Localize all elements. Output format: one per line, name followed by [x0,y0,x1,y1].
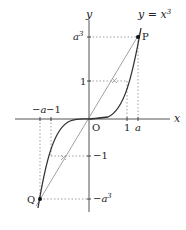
y-tick-neg-a3: −a3 [93,192,112,204]
y-tick-a3: a3 [73,30,84,42]
point-P-label: P [142,31,149,42]
curve-label: y = x3 [137,8,172,21]
x-tick-neg-1: −1 [46,104,61,115]
x-tick-a: a [135,122,141,133]
cubic-graph-diagram: y x O y = x3 P Q −a −1 1 a a3 1 −1 −a3 [0,0,186,230]
point-P [136,35,140,39]
origin-label: O [92,122,100,133]
y-axis-label: y [85,8,93,21]
point-Q [38,197,42,201]
x-tick-one: 1 [124,122,130,133]
y-tick-neg-1: −1 [93,150,108,161]
axes [15,20,170,212]
x-axis-label: x [174,112,181,125]
y-tick-one: 1 [80,76,86,87]
point-Q-label: Q [27,194,35,205]
x-tick-neg-a: −a [32,104,46,115]
